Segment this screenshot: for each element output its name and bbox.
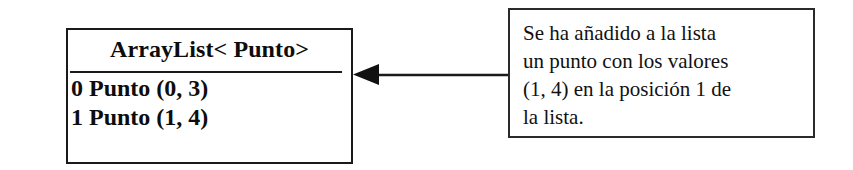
list-item: 1 Punto (1, 4) — [70, 103, 353, 132]
arraylist-header-divider — [70, 71, 342, 73]
annotation-line: Se ha añadido a la lista — [523, 19, 803, 47]
arraylist-rows: 0 Punto (0, 3) 1 Punto (1, 4) — [70, 74, 353, 132]
left-arrow-icon — [352, 62, 510, 88]
arraylist-header-label: ArrayList< Punto> — [68, 32, 351, 66]
annotation-line: un punto con los valores — [523, 47, 803, 75]
annotation-note-box: Se ha añadido a la lista un punto con lo… — [508, 8, 815, 138]
arraylist-box: ArrayList< Punto> 0 Punto (0, 3) 1 Punto… — [66, 28, 353, 164]
diagram-canvas: ArrayList< Punto> 0 Punto (0, 3) 1 Punto… — [0, 0, 853, 170]
annotation-line: (1, 4) en la posición 1 de — [523, 75, 803, 103]
annotation-line: la lista. — [523, 103, 803, 131]
list-item: 0 Punto (0, 3) — [70, 74, 353, 103]
